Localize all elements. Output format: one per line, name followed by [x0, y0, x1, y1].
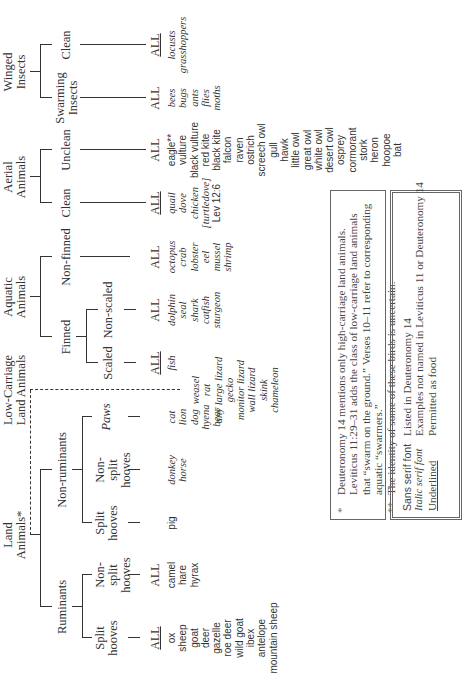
- category-aerial-label: Aerial Animals: [2, 147, 28, 207]
- example-item: lobster: [189, 241, 200, 274]
- subcategory-aerial-unclean: Unclean: [60, 129, 73, 171]
- example-item: bat: [392, 122, 403, 178]
- all-label: ALL: [148, 298, 163, 321]
- example-item: falcon: [222, 122, 233, 178]
- subcategory-nonruminant-split-hooves: Split hooves: [94, 503, 120, 543]
- examples-non-finned: octopuscrablobstereelmusselshrimp: [166, 241, 234, 274]
- insects-bracket: [40, 45, 41, 98]
- example-item: little owl: [290, 122, 301, 178]
- connector: [72, 469, 82, 470]
- example-item: gecko: [224, 357, 235, 423]
- connector: [80, 256, 130, 257]
- example-item: antelope: [256, 602, 267, 673]
- connector: [40, 606, 52, 607]
- example-item: ants: [189, 85, 200, 110]
- low-carriage-dashed-line: [30, 389, 180, 390]
- example-item: black kite: [211, 122, 222, 178]
- example-item: ox: [166, 602, 177, 673]
- examples-nonruminant-nonsplit: donkeyhorse: [166, 455, 189, 485]
- connector: [30, 296, 40, 297]
- examples-aerial-unclean: eagle**vultureblack vulturered kiteblack…: [166, 122, 403, 178]
- example-item: shark: [189, 292, 200, 328]
- connector: [80, 44, 146, 45]
- connector: [128, 416, 140, 417]
- example-item: crab: [177, 241, 188, 274]
- footnote-text: Deuteronomy 14 mentions only high-carria…: [335, 197, 385, 495]
- example-item: bugs: [177, 85, 188, 110]
- ruminants-bracket: [82, 575, 83, 638]
- example-item: stork: [358, 122, 369, 178]
- example-item: screech owl: [256, 122, 267, 178]
- examples-insects-clean: locustsgrasshoppers: [166, 17, 189, 74]
- connector: [82, 522, 92, 523]
- example-item: wall lizard: [246, 357, 257, 423]
- connector: [40, 469, 52, 470]
- connector: [128, 574, 140, 575]
- subcategory-non-scaled: Non-scaled: [102, 282, 115, 339]
- connector: [128, 522, 140, 523]
- subcategory-finned: Finned: [60, 320, 73, 355]
- footnotes-box: * Deuteronomy 14 mentions only high-carr…: [330, 190, 386, 520]
- aerial-bracket: [40, 150, 41, 203]
- connector: [72, 606, 82, 607]
- legend-row: Underlined Permitted as food: [426, 174, 438, 511]
- footnote-1: * Deuteronomy 14 mentions only high-carr…: [335, 197, 385, 513]
- example-item: ibex: [245, 602, 256, 673]
- subcategory-non-finned: Non-finned: [60, 228, 73, 286]
- example-item: weasel: [190, 357, 201, 423]
- example-item: red kite: [200, 122, 211, 178]
- category-aquatic-label: Aquatic Animals: [2, 267, 28, 327]
- examples-non-scaled: dolphinsealsharkcatfishsturgeon: [166, 292, 222, 328]
- examples-aerial-clean: quaildovechicken[turtledove]Lev 12:6: [166, 178, 222, 229]
- example-item: dove: [177, 178, 188, 229]
- example-item: gull: [268, 122, 279, 178]
- subcategory-ruminants: Ruminants: [56, 580, 69, 634]
- example-item: eagle**: [166, 122, 177, 178]
- connector: [80, 202, 146, 203]
- example-item: mussel: [211, 241, 222, 274]
- example-item: quail: [166, 178, 177, 229]
- example-item: rat: [201, 357, 212, 423]
- category-low-carriage-label: Low-Carriage Land Animals: [2, 345, 28, 435]
- example-item: hare: [177, 562, 188, 589]
- subcategory-paws: Paws: [100, 403, 113, 430]
- connector: [76, 336, 86, 337]
- subcategory-aerial-clean: Clean: [60, 188, 73, 217]
- legend-box: Sans serif font Listed in Deuteronomy 14…: [390, 190, 462, 520]
- examples-ruminant-split: oxsheepgoatdeergazelleroe deerwild goati…: [166, 602, 279, 673]
- example-item: hawk: [279, 122, 290, 178]
- example-item: hyrax: [189, 562, 200, 589]
- legend-row: Sans serif font Listed in Deuteronomy 14: [401, 174, 413, 511]
- legend-meaning: Listed in Deuteronomy 14: [401, 174, 413, 436]
- example-item: black vulture: [189, 122, 200, 178]
- connector: [80, 97, 146, 98]
- subcategory-ruminant-split-hooves: Split hooves: [94, 618, 120, 658]
- all-label-permitted: ALL: [148, 626, 163, 649]
- example-item: desert owl: [324, 122, 335, 178]
- legend-table: Sans serif font Listed in Deuteronomy 14…: [401, 174, 438, 511]
- legend-key-underline: Underlined: [426, 436, 438, 511]
- example-item: shrimp: [222, 241, 233, 274]
- example-item: octopus: [166, 241, 177, 274]
- example-item: mountain sheep: [268, 602, 279, 673]
- subcategory-non-ruminants: Non-ruminants: [56, 432, 69, 508]
- example-item: bees: [166, 85, 177, 110]
- subcategory-scaled: Scaled: [102, 346, 115, 379]
- connector: [86, 362, 98, 363]
- example-item: seal: [177, 292, 188, 328]
- legend-meaning: Permitted as food: [426, 174, 438, 436]
- connector: [30, 71, 40, 72]
- example-item: cormorant: [347, 122, 358, 178]
- example-item: fish: [166, 355, 177, 370]
- legend-key-italic: Italic serif font: [413, 436, 425, 511]
- example-item: ostrich: [245, 122, 256, 178]
- connector: [82, 637, 92, 638]
- connector: [128, 637, 140, 638]
- connector: [128, 469, 140, 470]
- example-item: [turtledove]: [200, 178, 211, 229]
- subcategory-insects-clean: Clean: [60, 30, 73, 59]
- examples-nonruminant-split: pig: [166, 516, 177, 529]
- connector: [86, 309, 98, 310]
- low-carriage-dashed-link: [30, 390, 31, 535]
